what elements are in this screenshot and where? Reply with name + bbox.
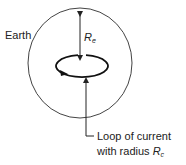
earth-label: Earth (5, 29, 31, 41)
loop-label-line2: with radius Rc (96, 145, 165, 158)
earth-radius-label: Re (84, 31, 96, 44)
loop-label-line1: Loop of current (97, 130, 171, 142)
earth-current-loop-diagram: Earth Re Loop of current with radius Rc (0, 0, 186, 165)
